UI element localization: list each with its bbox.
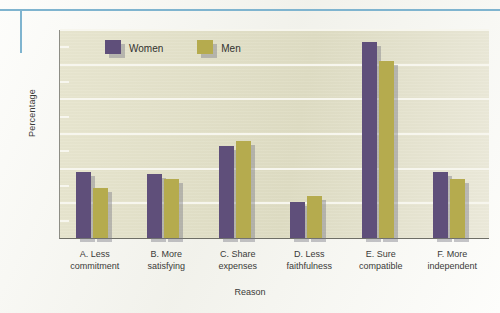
gridline xyxy=(60,202,489,204)
y-axis-minor-tick xyxy=(60,46,69,48)
bar-women-3 xyxy=(290,202,305,238)
bar-men-4 xyxy=(379,61,394,238)
bar-men-0 xyxy=(93,188,108,238)
x-axis-tick-label-line: independent xyxy=(409,260,495,272)
legend-label: Men xyxy=(221,43,240,54)
bar-women-2 xyxy=(219,146,234,238)
bar-body xyxy=(362,42,377,238)
x-axis-title: Reason xyxy=(0,287,500,297)
y-axis-title: Percentage xyxy=(27,53,37,173)
plot-area xyxy=(59,30,489,239)
bar-body xyxy=(290,202,305,238)
legend-entry-men: Men xyxy=(197,40,240,56)
legend-swatch-body xyxy=(197,40,213,54)
scanned-page: Percentage 0102030405060 A. Lesscommitme… xyxy=(0,0,500,313)
bar-men-3 xyxy=(307,196,322,238)
bar-body xyxy=(147,174,162,238)
bar-body xyxy=(307,196,322,238)
x-axis-tick-label: F. Moreindependent xyxy=(409,248,495,272)
bar-body xyxy=(76,172,91,238)
y-axis-minor-tick xyxy=(60,185,69,187)
bar-chart: Percentage 0102030405060 A. Lesscommitme… xyxy=(0,0,500,313)
bar-men-1 xyxy=(164,179,179,238)
gridline xyxy=(60,133,489,135)
y-axis-minor-tick xyxy=(60,150,69,152)
bar-men-2 xyxy=(236,141,251,238)
legend-swatch-body xyxy=(105,40,121,54)
gridline xyxy=(60,168,489,170)
gridline xyxy=(60,64,489,66)
bar-men-5 xyxy=(450,179,465,238)
bar-body xyxy=(219,146,234,238)
bar-women-5 xyxy=(433,172,448,238)
bar-body xyxy=(433,172,448,238)
legend-label: Women xyxy=(129,43,163,54)
bar-women-0 xyxy=(76,172,91,238)
legend: WomenMen xyxy=(105,40,267,56)
bar-body xyxy=(236,141,251,238)
x-axis-tick-label-line: F. More xyxy=(409,248,495,260)
y-axis-minor-tick xyxy=(60,81,69,83)
legend-entry-women: Women xyxy=(105,40,163,56)
bar-body xyxy=(450,179,465,238)
y-axis-minor-tick xyxy=(60,220,69,222)
bar-body xyxy=(164,179,179,238)
bar-body xyxy=(379,61,394,238)
legend-swatch xyxy=(105,40,123,56)
bar-body xyxy=(93,188,108,238)
y-axis-minor-tick xyxy=(60,116,69,118)
gridline xyxy=(60,98,489,100)
bar-women-1 xyxy=(147,174,162,238)
bar-women-4 xyxy=(362,42,377,238)
gridline xyxy=(60,29,489,31)
legend-swatch xyxy=(197,40,215,56)
